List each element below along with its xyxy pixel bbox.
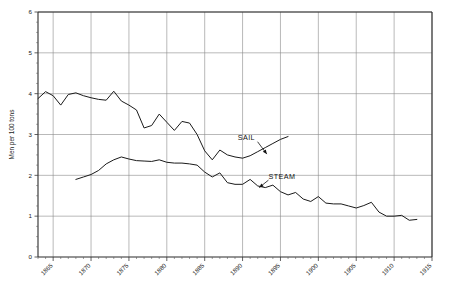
- x-tick-label: 1875: [115, 261, 130, 276]
- series-line-steam: [76, 157, 417, 220]
- y-tick-label: 1: [29, 212, 33, 219]
- chart-container: 1865187018751880188518901895190019051910…: [0, 0, 452, 292]
- x-tick-label: 1885: [191, 261, 206, 276]
- x-tick-label: 1895: [266, 261, 281, 276]
- y-tick-label: 3: [29, 131, 33, 138]
- data-series: [38, 91, 417, 220]
- annotation-arrowhead-sail: [263, 150, 267, 155]
- gridlines: [38, 12, 432, 257]
- y-tick-label: 4: [29, 90, 33, 97]
- series-annotations: SAILSTEAM: [238, 133, 296, 187]
- x-tick-label: 1870: [77, 261, 92, 276]
- y-axis-tick-labels: 0123456: [29, 8, 33, 260]
- y-tick-label: 5: [29, 49, 33, 56]
- y-tick-label: 6: [29, 8, 33, 15]
- y-tick-label: 0: [29, 253, 33, 260]
- x-tick-label: 1880: [153, 261, 168, 276]
- x-tick-label: 1915: [418, 261, 433, 276]
- annotation-label-sail: SAIL: [238, 133, 255, 142]
- tick-marks: [35, 12, 433, 261]
- x-tick-label: 1900: [304, 261, 319, 276]
- x-tick-label: 1890: [229, 261, 244, 276]
- line-chart: 1865187018751880188518901895190019051910…: [0, 0, 452, 292]
- y-tick-label: 2: [29, 172, 33, 179]
- y-axis-title-text: Men per 100 tons: [8, 110, 16, 160]
- x-tick-label: 1910: [380, 261, 395, 276]
- x-axis-tick-labels: 1865187018751880188518901895190019051910…: [39, 261, 433, 276]
- annotation-label-steam: STEAM: [269, 172, 296, 181]
- y-axis-title: Men per 100 tons: [8, 110, 16, 160]
- x-tick-label: 1905: [342, 261, 357, 276]
- series-line-sail: [38, 91, 288, 160]
- x-tick-label: 1865: [39, 261, 54, 276]
